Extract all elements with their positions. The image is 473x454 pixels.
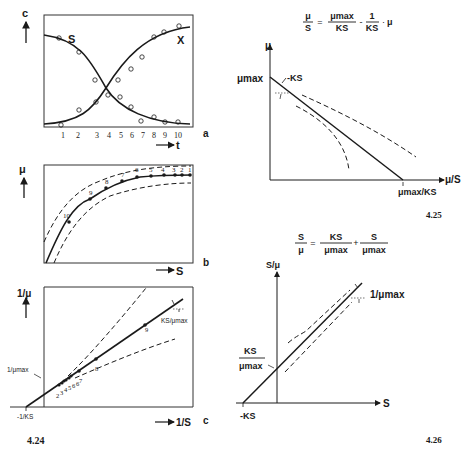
svg-text:4: 4 [161, 166, 165, 174]
svg-text:μ: μ [387, 17, 393, 27]
svg-text:μmax: μmax [324, 245, 348, 255]
svg-text:4: 4 [107, 131, 111, 140]
figure-number: 4.25 [426, 210, 442, 220]
svg-text:3: 3 [60, 389, 63, 396]
point-labels: 10 9 8 7 6 5 4 3 2 1 [63, 166, 192, 220]
svg-text:5: 5 [119, 131, 123, 140]
x-axis-label: μ/S [445, 174, 461, 185]
svg-text:3: 3 [95, 131, 99, 140]
svg-text:7: 7 [79, 377, 83, 384]
svg-text:μmax: μmax [330, 11, 354, 21]
y-axis-label: μ [19, 163, 26, 175]
y-intercept-num: KS [244, 346, 257, 356]
y-intercept-pointer [268, 365, 274, 368]
svg-text:10: 10 [63, 212, 71, 220]
x-axis-label: S [383, 398, 390, 409]
svg-text:=: = [317, 17, 322, 27]
svg-text:+: + [353, 238, 358, 248]
svg-text:2: 2 [76, 131, 80, 140]
slope-tick [172, 300, 174, 304]
panel-a: c S X 1 2 3 4 5 6 7 [22, 7, 209, 151]
equation-4-26: S μ = KS μmax + S μmax [295, 232, 388, 255]
s-curve [44, 35, 190, 124]
svg-text:μ: μ [305, 11, 311, 21]
svg-text:KS: KS [336, 23, 349, 33]
s-series-label: S [68, 33, 75, 45]
regression-line [270, 77, 403, 180]
svg-text:7: 7 [141, 131, 145, 140]
figure-canvas: c S X 1 2 3 4 5 6 7 [0, 0, 473, 454]
svg-text:9: 9 [145, 326, 148, 333]
x-series-label: X [177, 34, 185, 46]
panel-letter-c: c [203, 415, 209, 426]
x-intercept-label: -1/KS [17, 413, 34, 420]
svg-text:-: - [360, 17, 363, 27]
svg-text:9: 9 [89, 189, 93, 197]
svg-text:·: · [382, 17, 385, 27]
svg-text:2: 2 [56, 392, 59, 399]
panel-letter-b: b [203, 257, 209, 268]
svg-text:KS: KS [330, 232, 343, 242]
panel-c: 1/μ 2 3 4 5 6 6 7 8 9 KS/μmax 1/μmax [7, 287, 209, 446]
upper-confidence-band [44, 166, 191, 242]
svg-text:3: 3 [172, 166, 176, 174]
x-intercept-label: μmax/KS [398, 187, 437, 197]
y-axis-label: c [22, 7, 28, 19]
svg-text:5: 5 [149, 166, 153, 174]
svg-text:S: S [371, 232, 377, 242]
figure-4-25: μ S = μmax KS - 1 KS · μ μ μ/S μmax -KS … [237, 11, 461, 220]
lower-confidence-band [75, 339, 175, 378]
panel-b: μ 10 9 8 7 6 5 4 3 2 1 S b [19, 163, 209, 277]
svg-text:1: 1 [369, 11, 374, 21]
svg-text:μ: μ [298, 245, 304, 255]
figure-number: 4.26 [426, 435, 442, 445]
svg-text:2: 2 [180, 166, 184, 174]
svg-text:8: 8 [95, 365, 98, 372]
equation-4-25: μ S = μmax KS - 1 KS · μ [303, 11, 393, 33]
svg-text:1: 1 [188, 166, 192, 174]
x-data-points [59, 24, 181, 127]
svg-text:S: S [305, 23, 311, 33]
regression-line [243, 283, 362, 403]
slope-label: KS/μmax [161, 317, 188, 325]
svg-text:μmax: μmax [362, 245, 386, 255]
y-intercept-label: μmax [237, 73, 264, 84]
regression-line [26, 299, 183, 407]
slope-guide-tick [280, 94, 281, 99]
svg-text:9: 9 [163, 131, 167, 140]
x-intercept-label: -KS [240, 411, 256, 421]
svg-text:8: 8 [105, 178, 109, 186]
slope-tick [355, 284, 358, 288]
x-axis-label: t [176, 139, 180, 151]
figure-number: 4.24 [27, 435, 45, 446]
x-tick-labels: 1 2 3 4 5 6 7 8 9 10 [61, 131, 182, 140]
y-intercept-label: 1/μmax [7, 366, 29, 374]
svg-text:S: S [298, 232, 304, 242]
slope-label: 1/μmax [370, 289, 405, 300]
svg-text:6: 6 [135, 166, 139, 174]
svg-text:5: 5 [68, 384, 71, 391]
y-intercept-pointer [34, 374, 41, 378]
slope-pointer [282, 78, 286, 83]
lower-confidence-band [296, 106, 349, 170]
data-points [67, 173, 192, 224]
panel-letter-a: a [203, 128, 209, 139]
svg-text:KS: KS [366, 23, 379, 33]
upper-confidence-band [302, 95, 416, 157]
y-axis-label: 1/μ [17, 288, 31, 299]
figure-4-26: S μ = KS μmax + S μmax S/μ S 1/μmax KS μ… [236, 232, 442, 445]
svg-text:1: 1 [61, 131, 65, 140]
svg-text:8: 8 [152, 131, 156, 140]
s-data-points [57, 36, 180, 124]
slope-label: -KS [287, 73, 303, 83]
svg-text:=: = [310, 238, 315, 248]
point-labels: 2 3 4 5 6 6 7 8 9 [56, 326, 148, 399]
y-axis-label: S/μ [266, 260, 280, 270]
lower-confidence-band [54, 183, 191, 263]
svg-text:6: 6 [130, 131, 134, 140]
y-intercept-den: μmax [239, 361, 263, 371]
x-axis-label: S [176, 265, 183, 277]
x-axis-label: 1/S [176, 417, 191, 428]
y-axis-label: μ [265, 40, 271, 51]
svg-text:7: 7 [121, 171, 125, 179]
